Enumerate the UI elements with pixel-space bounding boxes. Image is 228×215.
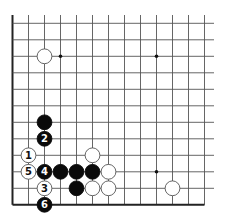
move-number: 5 [25, 166, 32, 177]
white-stone [85, 148, 100, 163]
move-number: 1 [25, 150, 32, 161]
black-stone [37, 115, 52, 130]
stone-disc [69, 181, 84, 196]
white-stone [165, 181, 180, 196]
move-number: 4 [41, 166, 48, 177]
white-stone-1: 1 [21, 148, 36, 163]
stone-disc [37, 115, 52, 130]
star-point [59, 55, 63, 59]
black-stone-2: 2 [37, 131, 52, 146]
black-stone-4: 4 [37, 164, 52, 179]
stone-disc [69, 164, 84, 179]
move-number: 6 [41, 199, 48, 210]
go-board: 215436 [0, 0, 228, 215]
stone-disc [85, 148, 100, 163]
star-point [155, 55, 159, 59]
white-stone [101, 181, 116, 196]
stone-disc [53, 164, 68, 179]
stone-disc [101, 164, 116, 179]
white-stone [101, 164, 116, 179]
stone-disc [85, 164, 100, 179]
stone-disc [85, 181, 100, 196]
star-point [155, 170, 159, 174]
black-stone [85, 164, 100, 179]
black-stone-6: 6 [37, 197, 52, 212]
black-stone [69, 164, 84, 179]
white-stone-5: 5 [21, 164, 36, 179]
white-stone [37, 49, 52, 64]
white-stone-3: 3 [37, 181, 52, 196]
stone-disc [165, 181, 180, 196]
white-stone [85, 181, 100, 196]
move-number: 2 [41, 133, 48, 144]
stone-disc [37, 49, 52, 64]
black-stone [53, 164, 68, 179]
move-number: 3 [41, 183, 48, 194]
black-stone [69, 181, 84, 196]
stone-disc [101, 181, 116, 196]
